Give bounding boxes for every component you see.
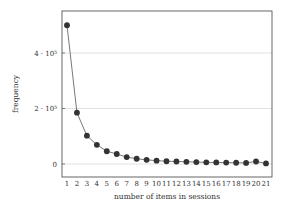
data-point: [174, 159, 180, 165]
x-tick-label: 4: [95, 180, 100, 188]
data-point: [223, 160, 229, 166]
data-point: [94, 142, 100, 148]
x-tick-label: 10: [152, 180, 161, 188]
x-tick-label: 18: [232, 180, 241, 188]
x-tick-label: 5: [105, 180, 109, 188]
data-point: [233, 160, 239, 166]
data-point: [144, 157, 150, 163]
y-tick-label: 4 · 10⁵: [34, 50, 57, 58]
data-point: [124, 154, 130, 160]
x-tick-label: 12: [172, 180, 181, 188]
x-tick-label: 14: [192, 180, 201, 188]
data-point: [64, 22, 70, 28]
y-axis-label: frequency: [11, 74, 20, 113]
x-tick-label: 11: [162, 180, 171, 188]
data-point: [84, 133, 90, 139]
x-axis-label: number of items in sessions: [114, 192, 220, 201]
y-axis-ticks: 02 · 10⁵4 · 10⁵: [34, 50, 65, 169]
x-tick-label: 7: [124, 180, 128, 188]
data-point: [193, 159, 199, 165]
y-tick-label: 2 · 10⁵: [34, 105, 57, 113]
y-tick-label: 0: [53, 161, 57, 169]
data-points: [64, 22, 269, 166]
x-tick-label: 6: [115, 180, 120, 188]
data-point: [114, 151, 120, 157]
x-tick-label: 2: [75, 180, 79, 188]
x-tick-label: 3: [85, 180, 89, 188]
x-axis-ticks: 123456789101112131415161718192021: [65, 180, 271, 188]
data-point: [263, 161, 269, 167]
x-tick-label: 9: [144, 180, 148, 188]
data-point: [74, 110, 80, 116]
x-tick-label: 21: [262, 180, 271, 188]
x-tick-label: 19: [242, 180, 251, 188]
x-tick-label: 13: [182, 180, 191, 188]
data-point: [213, 160, 219, 166]
plot-frame: [62, 11, 272, 177]
frequency-line-chart: 02 · 10⁵4 · 10⁵ 123456789101112131415161…: [0, 0, 289, 210]
x-tick-label: 15: [202, 180, 211, 188]
data-point: [164, 158, 170, 164]
data-point: [203, 159, 209, 165]
x-tick-label: 1: [65, 180, 69, 188]
x-tick-label: 8: [134, 180, 138, 188]
gridlines: [62, 53, 272, 164]
data-point: [134, 156, 140, 162]
data-point: [104, 148, 110, 154]
data-point: [154, 158, 160, 164]
x-tick-label: 16: [212, 180, 221, 188]
x-tick-label: 17: [222, 180, 231, 188]
data-point: [253, 159, 259, 165]
data-point: [243, 160, 249, 166]
x-tick-label: 20: [252, 180, 261, 188]
data-point: [184, 159, 190, 165]
